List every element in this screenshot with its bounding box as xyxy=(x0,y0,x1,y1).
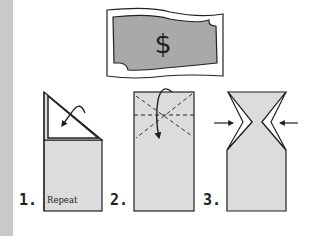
step-1-number: 1. xyxy=(19,193,37,208)
step-3-diagram xyxy=(214,92,298,211)
step-1-repeat-note: Repeat xyxy=(47,196,77,205)
step-2-diagram xyxy=(134,89,194,211)
step-2-number: 2. xyxy=(110,193,128,208)
step-1-diagram xyxy=(44,92,102,211)
step-3-number: 3. xyxy=(203,193,221,208)
dollar-sign: $ xyxy=(154,28,171,59)
dollar-bill-icon: $ xyxy=(107,8,223,78)
